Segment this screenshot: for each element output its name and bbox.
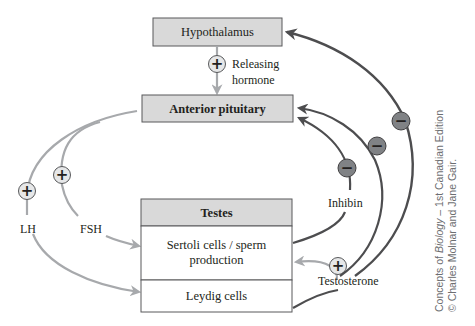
- fsh-label: FSH: [80, 222, 102, 236]
- testosterone-label: Testosterone: [318, 274, 378, 288]
- fsh-pathway: + FSH: [54, 122, 140, 246]
- testes-box: Testes Sertoli cells / sperm production …: [141, 199, 292, 312]
- caption-italic: Biology: [433, 218, 445, 253]
- plus-icon: +: [21, 182, 34, 200]
- inhibin-label: Inhibin: [328, 196, 363, 210]
- sertoli-label-2: production: [189, 253, 244, 267]
- lh-label: LH: [20, 222, 36, 236]
- sertoli-label-1: Sertoli cells / sperm: [167, 238, 267, 252]
- lh-pathway: + LH: [19, 111, 140, 292]
- minus-icon: −: [371, 137, 384, 155]
- leydig-label: Leydig cells: [186, 289, 248, 303]
- hypothalamus-label: Hypothalamus: [181, 25, 254, 39]
- plus-icon: +: [211, 55, 224, 73]
- anterior-pituitary-box: Anterior pituitary: [142, 95, 293, 122]
- caption-line2: © Charles Molnar and Jane Gair.: [446, 159, 458, 312]
- testosterone-to-pituitary: −: [299, 108, 386, 276]
- caption-post: – 1st Canadian Edition: [433, 110, 445, 219]
- anterior-pituitary-label: Anterior pituitary: [169, 102, 266, 116]
- testes-label: Testes: [200, 206, 232, 220]
- copyright-caption: Concepts of Biology – 1st Canadian Editi…: [433, 110, 458, 312]
- releasing-label-2: hormone: [232, 73, 275, 87]
- feedback-diagram: Hypothalamus + Releasing hormone Anterio…: [0, 0, 475, 326]
- releasing-hormone-arrow: + Releasing hormone: [209, 46, 280, 93]
- minus-icon: −: [341, 159, 354, 177]
- inhibin-feedback: − Inhibin: [293, 118, 363, 243]
- svg-text:Concepts of Biology – 1st Cana: Concepts of Biology – 1st Canadian Editi…: [433, 110, 445, 312]
- releasing-label-1: Releasing: [232, 57, 279, 71]
- hypothalamus-box: Hypothalamus: [153, 18, 282, 46]
- plus-icon: +: [332, 257, 345, 275]
- plus-icon: +: [56, 166, 69, 184]
- caption-pre: Concepts of: [433, 253, 445, 312]
- testosterone-local-feedback: + Testosterone: [293, 257, 378, 308]
- minus-icon: −: [395, 112, 408, 130]
